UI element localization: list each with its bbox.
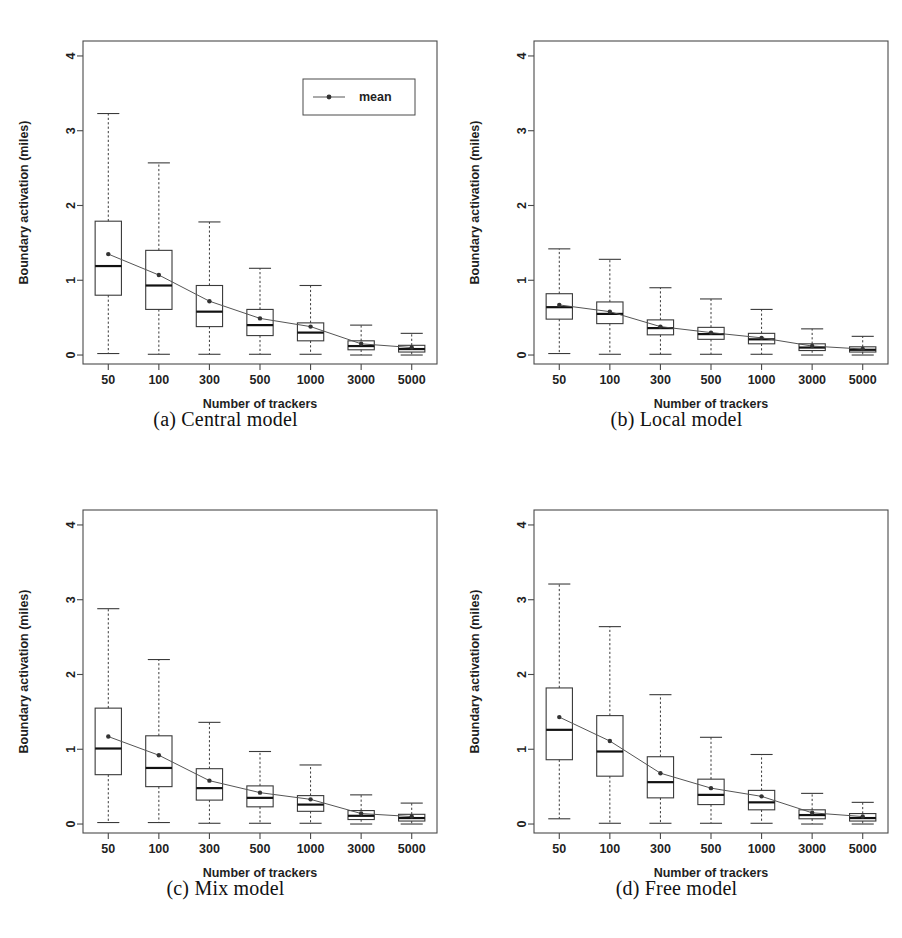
box-iqr [146, 736, 172, 787]
boxplot-500 [247, 268, 273, 354]
mean-point [106, 734, 110, 738]
mean-point [410, 814, 414, 818]
mean-point [157, 753, 161, 757]
box-iqr [247, 309, 273, 335]
boxplot-5000 [850, 336, 876, 355]
x-tick-label: 1000 [297, 373, 325, 387]
y-tick-label: 2 [64, 202, 78, 209]
legend-marker-sample [327, 95, 332, 100]
x-tick-label: 50 [101, 373, 115, 387]
y-tick-label: 2 [64, 671, 78, 678]
plot-frame [534, 41, 888, 364]
y-tick-label: 0 [515, 352, 529, 359]
mean-point [861, 814, 865, 818]
y-tick-label: 1 [515, 746, 529, 753]
boxplot-300 [196, 722, 222, 823]
mean-point [608, 309, 612, 313]
panel-d: 01234Boundary activation (miles)50100300… [451, 469, 902, 938]
box-iqr [597, 716, 623, 777]
box-iqr [698, 779, 724, 804]
x-tick-label: 3000 [347, 842, 375, 856]
x-tick-label: 3000 [798, 842, 826, 856]
x-tick-label: 100 [599, 842, 620, 856]
plot-area-c: 01234Boundary activation (miles)50100300… [0, 469, 451, 879]
boxplot-3000 [348, 795, 374, 824]
boxplot-1000 [748, 754, 774, 823]
panel-c: 01234Boundary activation (miles)50100300… [0, 469, 451, 938]
x-tick-label: 50 [552, 842, 566, 856]
boxplot-300 [647, 288, 673, 355]
box-iqr [196, 285, 222, 326]
x-tick-label: 3000 [347, 373, 375, 387]
boxplot-300 [196, 222, 222, 354]
boxplot-500 [698, 737, 724, 823]
y-axis-title: Boundary activation (miles) [468, 590, 482, 754]
x-tick-label: 500 [701, 373, 722, 387]
panel-b: 01234Boundary activation (miles)50100300… [451, 0, 902, 469]
mean-point [658, 771, 662, 775]
x-tick-label: 500 [250, 373, 271, 387]
x-tick-label: 5000 [849, 373, 877, 387]
x-tick-label: 5000 [398, 842, 426, 856]
x-tick-label: 1000 [748, 373, 776, 387]
mean-point [557, 715, 561, 719]
mean-point [861, 347, 865, 351]
y-tick-label: 0 [64, 352, 78, 359]
box-iqr [196, 769, 222, 800]
legend-label-mean: mean [359, 90, 392, 104]
mean-point [308, 797, 312, 801]
mean-point [359, 811, 363, 815]
boxplot-100 [146, 163, 172, 354]
y-tick-label: 4 [515, 52, 529, 59]
boxplot-5000 [399, 333, 425, 355]
x-tick-label: 1000 [748, 842, 776, 856]
panel-caption-d: (d) Free model [451, 877, 902, 900]
mean-point [810, 811, 814, 815]
mean-point [709, 330, 713, 334]
mean-series-line [559, 717, 862, 816]
x-tick-label: 50 [101, 842, 115, 856]
boxplot-50 [95, 114, 121, 354]
mean-point [810, 344, 814, 348]
boxplot-5000 [399, 803, 425, 824]
mean-point [608, 739, 612, 743]
mean-point [258, 790, 262, 794]
boxplot-100 [146, 660, 172, 823]
y-tick-label: 2 [515, 202, 529, 209]
boxplot-1000 [748, 309, 774, 354]
x-tick-label: 100 [599, 373, 620, 387]
mean-point [709, 786, 713, 790]
panel-caption-a: (a) Central model [0, 408, 451, 431]
x-tick-label: 3000 [798, 373, 826, 387]
boxplot-3000 [799, 793, 825, 824]
y-axis-title: Boundary activation (miles) [468, 121, 482, 285]
y-tick-label: 3 [64, 127, 78, 134]
mean-point [157, 273, 161, 277]
boxplot-50 [546, 584, 572, 819]
boxplot-100 [597, 259, 623, 354]
y-tick-label: 3 [515, 127, 529, 134]
y-tick-label: 0 [64, 821, 78, 828]
x-tick-label: 100 [148, 373, 169, 387]
panel-caption-c: (c) Mix model [0, 877, 451, 900]
legend: mean [303, 79, 415, 115]
boxplot-3000 [799, 329, 825, 355]
box-iqr [647, 757, 673, 798]
x-tick-label: 100 [148, 842, 169, 856]
mean-point [410, 345, 414, 349]
boxplot-3000 [348, 325, 374, 355]
y-axis-title: Boundary activation (miles) [17, 590, 31, 754]
x-tick-label: 300 [650, 373, 671, 387]
y-tick-label: 1 [64, 277, 78, 284]
y-tick-label: 4 [64, 521, 78, 528]
y-tick-label: 3 [64, 596, 78, 603]
mean-point [258, 316, 262, 320]
mean-point [359, 342, 363, 346]
y-tick-label: 4 [64, 52, 78, 59]
mean-point [106, 252, 110, 256]
boxplot-1000 [297, 285, 323, 354]
boxplot-500 [698, 299, 724, 354]
plot-area-b: 01234Boundary activation (miles)50100300… [451, 0, 902, 410]
y-tick-label: 3 [515, 596, 529, 603]
x-tick-label: 50 [552, 373, 566, 387]
